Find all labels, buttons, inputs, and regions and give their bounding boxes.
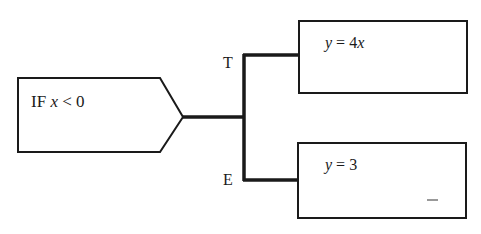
condition-shape: [18, 78, 183, 152]
then-label: T: [223, 54, 233, 72]
else-statement: y = 3: [325, 156, 357, 174]
then-statement: y = 4x: [325, 34, 364, 52]
then-box: [299, 21, 467, 93]
else-label: E: [223, 171, 233, 189]
else-box: [298, 143, 466, 218]
flowchart-lines: [0, 0, 481, 234]
condition-text: IF x < 0: [31, 92, 85, 112]
